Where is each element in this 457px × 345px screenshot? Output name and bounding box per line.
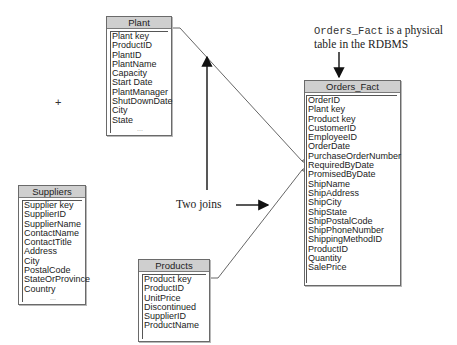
annotation-text: is a physical	[383, 24, 443, 36]
annotation-code: Orders_Fact	[314, 25, 383, 37]
cursor-crosshair-icon: +	[55, 96, 61, 108]
suppliers-table-title: Suppliers	[19, 186, 85, 198]
orders-fact-table[interactable]: Orders_Fact OrderID Plant key Product ke…	[304, 80, 401, 286]
more-fields-indicator: ...	[112, 125, 168, 133]
suppliers-field-list: Supplier key SupplierID SupplierName Con…	[22, 200, 82, 302]
field[interactable]: ProductName	[144, 321, 206, 330]
join-line-products	[210, 170, 302, 278]
field[interactable]: State	[112, 116, 168, 125]
field[interactable]: Country	[24, 285, 82, 294]
orders-fact-field-list: OrderID Plant key Product key CustomerID…	[306, 95, 397, 283]
plant-table-title: Plant	[107, 17, 171, 29]
products-table-title: Products	[139, 260, 209, 272]
suppliers-table[interactable]: Suppliers Supplier key SupplierID Suppli…	[18, 185, 86, 305]
two-joins-label: Two joins	[176, 198, 222, 211]
field[interactable]: SalePrice	[308, 263, 397, 272]
physical-table-annotation: Orders_Fact is a physical table in the R…	[314, 24, 443, 51]
join-line-plant	[171, 28, 302, 161]
products-table[interactable]: Products Product key ProductID UnitPrice…	[138, 259, 210, 342]
products-field-list: Product key ProductID UnitPrice Disconti…	[142, 274, 206, 339]
plant-table[interactable]: Plant Plant key ProductID PlantID PlantN…	[106, 16, 172, 136]
orders-fact-table-title: Orders_Fact	[305, 81, 400, 93]
more-fields-indicator: ...	[24, 294, 82, 302]
plant-field-list: Plant key ProductID PlantID PlantName Ca…	[110, 31, 168, 133]
annotation-text-line2: table in the RDBMS	[314, 38, 408, 50]
